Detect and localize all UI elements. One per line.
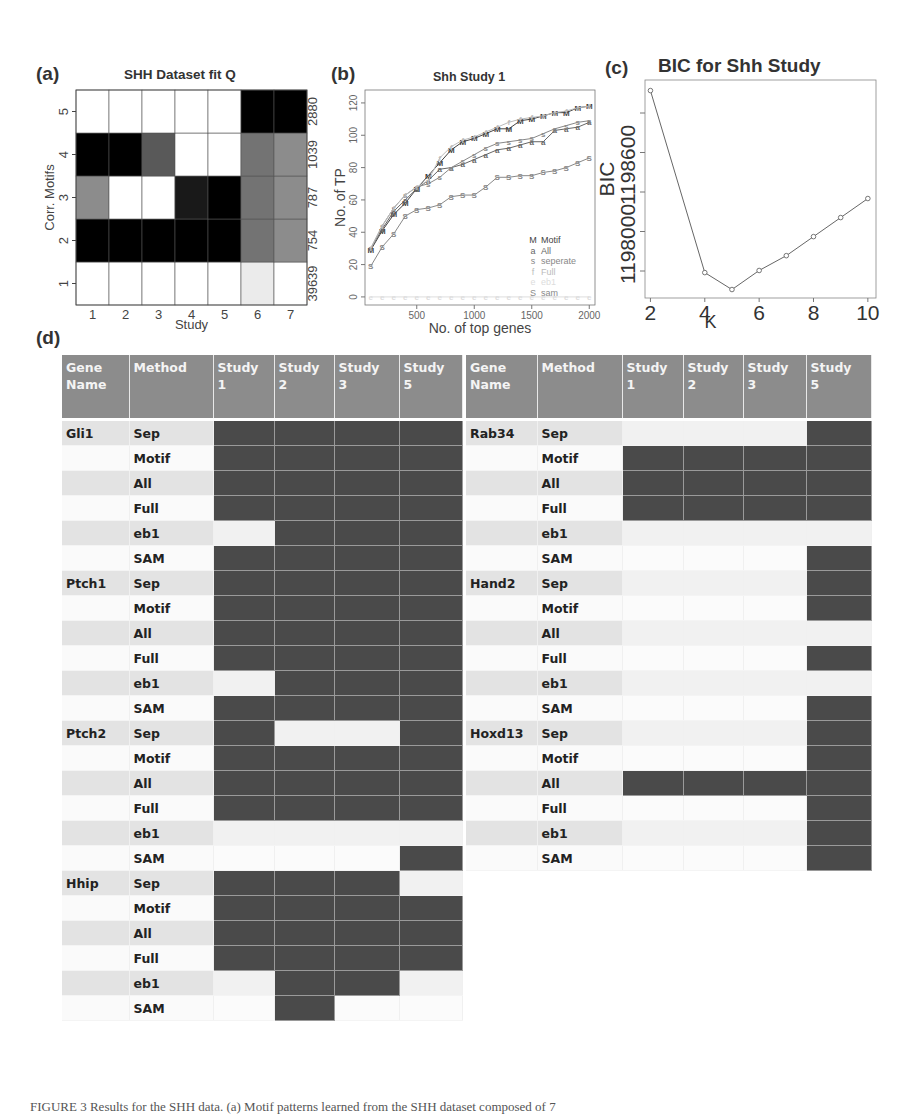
detected-cell bbox=[806, 496, 871, 521]
detected-cell bbox=[213, 921, 274, 946]
empty-cell bbox=[399, 996, 462, 1021]
detected-cell bbox=[399, 671, 462, 696]
table-row: eb1 bbox=[62, 671, 462, 696]
header-line: Method bbox=[542, 359, 618, 376]
gene-name-cell bbox=[62, 671, 129, 696]
gene-name-cell bbox=[62, 996, 129, 1021]
method-cell: All bbox=[129, 621, 213, 646]
header-line: Study bbox=[748, 359, 802, 376]
table-row: Ptch1Sep bbox=[62, 571, 462, 596]
method-cell: eb1 bbox=[537, 671, 622, 696]
method-cell: eb1 bbox=[537, 521, 622, 546]
gene-name-cell bbox=[62, 971, 129, 996]
detected-cell bbox=[334, 446, 399, 471]
table-row: Ptch2Sep bbox=[62, 721, 462, 746]
gene-name-cell bbox=[466, 671, 537, 696]
table-row: Hand2Sep bbox=[466, 571, 871, 596]
empty-cell bbox=[683, 696, 743, 721]
detected-cell bbox=[399, 796, 462, 821]
detected-cell bbox=[334, 871, 399, 896]
detected-cell bbox=[399, 771, 462, 796]
bic-point bbox=[757, 268, 762, 273]
empty-cell bbox=[683, 571, 743, 596]
table-header-cell: GeneName bbox=[62, 355, 129, 418]
gene-name-cell bbox=[62, 946, 129, 971]
detected-cell bbox=[806, 771, 871, 796]
table-row: SAM bbox=[62, 996, 462, 1021]
table-header-cell: Study1 bbox=[622, 355, 683, 418]
detected-cell bbox=[213, 746, 274, 771]
method-cell: Sep bbox=[537, 571, 622, 596]
header-line: 1 bbox=[627, 376, 679, 393]
method-cell: All bbox=[129, 921, 213, 946]
method-cell: Full bbox=[129, 796, 213, 821]
table-row: Gli1Sep bbox=[62, 421, 462, 446]
svg-text:1198600: 1198600 bbox=[616, 125, 639, 205]
gene-name-cell bbox=[466, 821, 537, 846]
method-cell: SAM bbox=[537, 846, 622, 871]
detected-cell bbox=[334, 771, 399, 796]
header-line: Study bbox=[811, 359, 867, 376]
empty-cell bbox=[743, 621, 806, 646]
gene-name-cell bbox=[466, 771, 537, 796]
table-row: Motif bbox=[466, 746, 871, 771]
detected-cell bbox=[806, 596, 871, 621]
detected-cell bbox=[274, 671, 334, 696]
table-row: All bbox=[62, 921, 462, 946]
empty-cell bbox=[274, 846, 334, 871]
table-header-cell: Study2 bbox=[683, 355, 743, 418]
detected-cell bbox=[399, 421, 462, 446]
method-cell: Motif bbox=[129, 446, 213, 471]
detected-cell bbox=[274, 571, 334, 596]
detected-cell bbox=[334, 696, 399, 721]
table-header-cell: Study5 bbox=[806, 355, 871, 418]
detected-cell bbox=[334, 471, 399, 496]
gene-name-cell: Gli1 bbox=[62, 421, 129, 446]
table-header-cell: Study3 bbox=[743, 355, 806, 418]
gene-name-cell bbox=[466, 546, 537, 571]
detected-cell bbox=[334, 946, 399, 971]
empty-cell bbox=[213, 971, 274, 996]
detected-cell bbox=[399, 496, 462, 521]
detected-cell bbox=[274, 921, 334, 946]
empty-cell bbox=[622, 796, 683, 821]
table-row: SAM bbox=[466, 696, 871, 721]
gene-name-cell bbox=[466, 621, 537, 646]
detected-cell bbox=[622, 771, 683, 796]
detected-cell bbox=[213, 471, 274, 496]
table-row: All bbox=[62, 471, 462, 496]
bic-point bbox=[648, 88, 653, 93]
header-line: 3 bbox=[339, 376, 395, 393]
empty-cell bbox=[334, 996, 399, 1021]
empty-cell bbox=[743, 796, 806, 821]
detected-cell bbox=[274, 746, 334, 771]
header-line: 5 bbox=[404, 376, 458, 393]
table-row: SAM bbox=[62, 696, 462, 721]
empty-cell bbox=[622, 521, 683, 546]
table-row: All bbox=[466, 771, 871, 796]
header-line: 2 bbox=[279, 376, 330, 393]
detected-cell bbox=[334, 796, 399, 821]
svg-text:6: 6 bbox=[753, 301, 765, 324]
header-line: Method bbox=[134, 359, 209, 376]
method-cell: Sep bbox=[537, 721, 622, 746]
method-cell: SAM bbox=[129, 546, 213, 571]
detected-cell bbox=[622, 471, 683, 496]
empty-cell bbox=[743, 721, 806, 746]
empty-cell bbox=[622, 746, 683, 771]
method-cell: eb1 bbox=[129, 971, 213, 996]
detected-cell bbox=[806, 746, 871, 771]
method-cell: eb1 bbox=[129, 521, 213, 546]
detected-cell bbox=[274, 546, 334, 571]
table-row: All bbox=[62, 771, 462, 796]
detected-cell bbox=[399, 621, 462, 646]
method-cell: Full bbox=[129, 646, 213, 671]
method-cell: eb1 bbox=[129, 821, 213, 846]
empty-cell bbox=[622, 696, 683, 721]
empty-cell bbox=[622, 821, 683, 846]
detected-cell bbox=[399, 571, 462, 596]
svg-text:BIC: BIC bbox=[595, 161, 618, 196]
detected-cell bbox=[743, 771, 806, 796]
detected-cell bbox=[334, 971, 399, 996]
table-header-row: GeneNameMethodStudy1Study2Study3Study5 bbox=[466, 355, 871, 418]
